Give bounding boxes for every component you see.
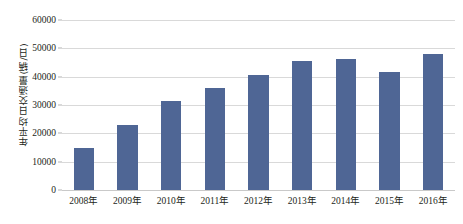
x-axis-tick-label: 2014年 [324, 193, 368, 207]
y-axis-tick-label: 40000 [10, 72, 56, 82]
bar [74, 148, 94, 191]
bars-group [62, 20, 455, 190]
x-axis-tick-label: 2011年 [193, 193, 237, 207]
bar-chart-figure: 年平均日交通量(辆/日) 010000200003000040000500006… [0, 0, 463, 224]
x-axis-tick-label: 2015年 [368, 193, 412, 207]
bar [379, 72, 399, 190]
bar [248, 75, 268, 190]
x-axis-tick-label: 2010年 [149, 193, 193, 207]
y-axis-title-label: 年平均日交通量(辆/日) [19, 43, 29, 146]
y-axis-tick-label: 0 [10, 185, 56, 195]
bar [205, 88, 225, 190]
x-axis-tick-label: 2009年 [106, 193, 150, 207]
x-axis-tick-label: 2013年 [280, 193, 324, 207]
x-axis-tick-label: 2012年 [237, 193, 281, 207]
bar [161, 101, 181, 190]
bar [117, 125, 137, 190]
y-axis-tick-label: 20000 [10, 128, 56, 138]
y-axis-tick-label: 50000 [10, 43, 56, 53]
plot-area [62, 20, 455, 190]
x-axis-tick-label: 2016年 [411, 193, 455, 207]
y-axis-tick-label: 60000 [10, 15, 56, 25]
x-axis-tick-labels: 2008年2009年2010年2011年2012年2013年2014年2015年… [62, 193, 455, 215]
gridline [62, 190, 455, 191]
y-axis-title: 年平均日交通量(辆/日) [13, 0, 35, 190]
y-axis-tick-label: 30000 [10, 100, 56, 110]
x-axis-tick-label: 2008年 [62, 193, 106, 207]
bar [292, 61, 312, 190]
bar [423, 54, 443, 190]
y-axis-tick-label: 10000 [10, 157, 56, 167]
bar [336, 59, 356, 190]
